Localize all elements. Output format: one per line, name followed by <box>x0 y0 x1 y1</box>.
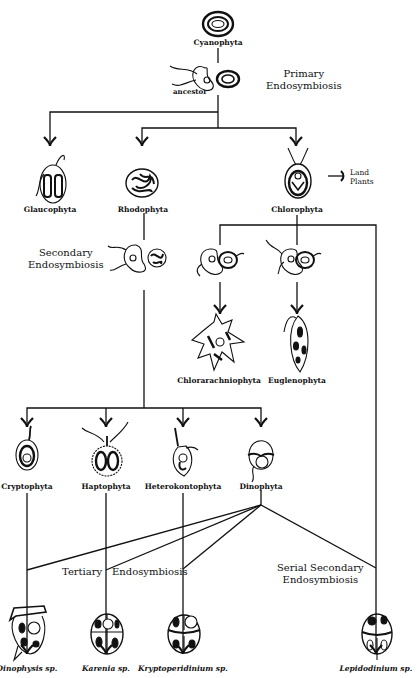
event-primary-line2: Endosymbiosis <box>266 80 342 92</box>
node-kryptoperidinium: Kryptoperidinium sp. <box>138 664 228 673</box>
event-tertiary-endosymbiosis-label: Endosymbiosis <box>112 566 188 578</box>
node-ancestor: ancestor <box>173 87 207 96</box>
node-rhodophyta: Rhodophyta <box>118 205 168 214</box>
secondary-host-red-icon <box>108 245 166 272</box>
node-cyanophyta: Cyanophyta <box>193 38 242 47</box>
glaucophyta-icon <box>36 155 66 203</box>
node-land-plants: Land Plants <box>350 168 374 186</box>
node-heterokontophyta: Heterokontophyta <box>145 482 222 491</box>
event-secondary-line1: Secondary <box>28 247 104 259</box>
node-haptophyta: Haptophyta <box>81 482 130 491</box>
node-cryptophyta: Cryptophyta <box>1 482 52 491</box>
lepidodinium-icon <box>362 614 392 660</box>
heterokontophyta-icon <box>173 428 198 476</box>
node-chlorophyta: Chlorophyta <box>271 205 323 214</box>
event-primary-endosymbiosis: Primary Endosymbiosis <box>266 68 342 92</box>
haptophyta-icon <box>82 422 128 476</box>
cyanophyta-icon <box>203 12 233 36</box>
node-karenia: Karenia sp. <box>82 664 130 673</box>
chlorophyta-icon <box>285 148 311 198</box>
dinophyta-icon <box>248 441 274 482</box>
land-plants-line2: Plants <box>350 177 374 186</box>
event-secondary-line2: Endosymbiosis <box>28 259 104 271</box>
chlorarachniophyta-icon <box>192 314 244 370</box>
secondary-host-green-icon-1 <box>197 249 244 276</box>
node-dinophysis: Dinophysis sp. <box>0 664 57 673</box>
euglenophyta-icon <box>284 316 308 372</box>
event-primary-line1: Primary <box>266 68 342 80</box>
node-lepidodinium: Lepidodinium sp. <box>340 664 413 673</box>
event-serial-line2: Endosymbiosis <box>277 574 364 586</box>
secondary-host-green-icon-2 <box>266 240 321 274</box>
event-serial-line1: Serial Secondary <box>277 562 364 574</box>
node-euglenophyta: Euglenophyta <box>268 376 326 385</box>
kryptoperidinium-icon <box>168 615 200 653</box>
event-serial-secondary-endosymbiosis: Serial Secondary Endosymbiosis <box>277 562 364 586</box>
land-plants-line1: Land <box>350 168 374 177</box>
node-chlorarachniophyta: Chlorarachniophyta <box>177 376 261 385</box>
node-glaucophyta: Glaucophyta <box>24 205 77 214</box>
event-tertiary-label: Tertiary <box>62 566 102 578</box>
event-secondary-endosymbiosis: Secondary Endosymbiosis <box>28 247 104 271</box>
cryptophyta-icon <box>16 426 38 470</box>
rhodophyta-icon <box>126 169 158 197</box>
karenia-icon <box>91 614 123 654</box>
node-dinophyta: Dinophyta <box>239 482 282 491</box>
